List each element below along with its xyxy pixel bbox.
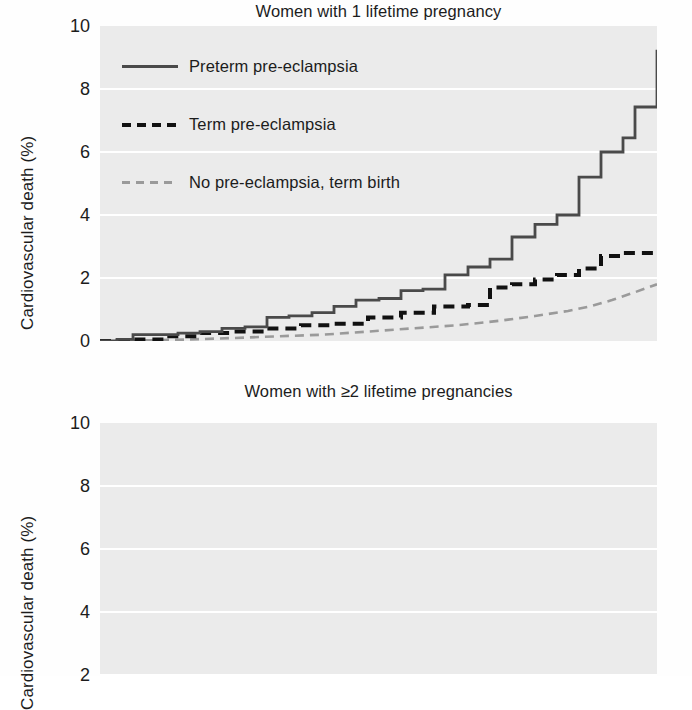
- panel-1-ytick-8: 8: [56, 80, 90, 98]
- panel-2-gridline-2: [100, 674, 657, 676]
- panel-1-plot-area: Preterm pre-eclampsia Term pre-eclampsia…: [100, 26, 657, 341]
- series-preterm-preeclampsia: [100, 51, 657, 341]
- panel-2-gridline-6: [100, 548, 657, 550]
- panel-1-ytick-0: 0: [56, 332, 90, 350]
- panel-1-y-axis-label: Cardiovascular death (%): [18, 136, 38, 330]
- panel-2-title: Women with ≥2 lifetime pregnancies: [100, 382, 657, 401]
- series-term-preeclampsia: [100, 253, 657, 341]
- panel-2-ytick-4: 4: [56, 603, 90, 621]
- panel-1-ytick-2: 2: [56, 269, 90, 287]
- panel-2-ytick-8: 8: [56, 477, 90, 495]
- panel-2-ytick-10: 10: [56, 414, 90, 432]
- panel-1-ytick-4: 4: [56, 206, 90, 224]
- panel-2-gridline-4: [100, 611, 657, 613]
- panel-2-plot-area: [100, 423, 657, 676]
- panel-women-2-or-more-pregnancies: Women with ≥2 lifetime pregnancies Cardi…: [0, 380, 692, 676]
- panel-2-gridline-8: [100, 485, 657, 487]
- panel-1-series-layer: [100, 26, 657, 341]
- panel-women-1-pregnancy: Women with 1 lifetime pregnancy Cardiova…: [0, 0, 692, 360]
- panel-1-ytick-6: 6: [56, 143, 90, 161]
- panel-2-ytick-2: 2: [56, 666, 90, 684]
- panel-2-y-axis-label: Cardiovascular death (%): [18, 516, 38, 710]
- panel-1-ytick-10: 10: [56, 17, 90, 35]
- panel-2-ytick-6: 6: [56, 540, 90, 558]
- panel-1-title: Women with 1 lifetime pregnancy: [100, 2, 657, 21]
